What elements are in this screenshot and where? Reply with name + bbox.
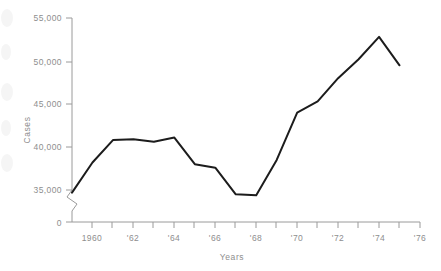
y-tick-label-45000: 45,000 (34, 99, 62, 109)
x-tick-label-64: '64 (168, 233, 180, 243)
line-chart: 55,000 50,000 45,000 40,000 35,000 0 Cas… (0, 0, 441, 271)
x-tick-label-68: '68 (250, 233, 262, 243)
y-axis: 55,000 50,000 45,000 40,000 35,000 0 Cas… (22, 13, 77, 228)
data-series-line (72, 37, 400, 195)
x-axis: 1960 '62 '64 '66 '68 '70 '72 '74 '76 Yea… (72, 222, 426, 262)
x-tick-label-62: '62 (127, 233, 139, 243)
x-tick-marks (92, 222, 420, 228)
y-tick-label-0: 0 (57, 218, 62, 228)
x-tick-label-66: '66 (209, 233, 221, 243)
y-tick-label-40000: 40,000 (34, 142, 62, 152)
x-axis-title: Years (220, 252, 244, 262)
y-tick-label-50000: 50,000 (34, 57, 62, 67)
y-tick-label-35000: 35,000 (34, 185, 62, 195)
x-tick-label-72: '72 (332, 233, 344, 243)
x-tick-label-1960: 1960 (82, 233, 103, 243)
x-tick-label-74: '74 (373, 233, 385, 243)
y-axis-title: Cases (22, 116, 32, 143)
page-artifact-smudges (1, 9, 13, 172)
x-tick-label-76: '76 (414, 233, 426, 243)
y-tick-label-55000: 55,000 (34, 13, 62, 23)
chart-canvas: 55,000 50,000 45,000 40,000 35,000 0 Cas… (0, 0, 441, 271)
x-tick-label-70: '70 (291, 233, 303, 243)
